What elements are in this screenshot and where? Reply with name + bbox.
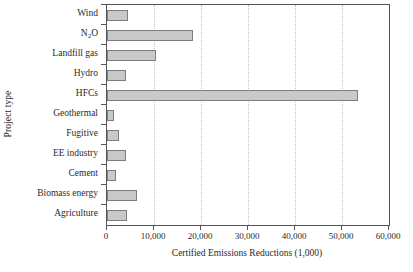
x-axis-tick-mark: [341, 225, 342, 230]
y-axis-tick-label: Cement: [14, 164, 102, 184]
y-axis-tick-label: Geothermal: [14, 104, 102, 124]
bar: [107, 210, 127, 221]
bar: [107, 10, 128, 21]
bar: [107, 130, 119, 141]
bar-row: [107, 165, 389, 185]
y-axis-tick-label: N2O: [14, 24, 102, 44]
bar-row: [107, 5, 389, 25]
bar: [107, 150, 126, 161]
plot-area: [106, 4, 390, 226]
y-axis-tick-label: Fugitive: [14, 124, 102, 144]
bar: [107, 170, 116, 181]
bar-row: [107, 125, 389, 145]
bar: [107, 50, 156, 61]
y-axis-tick-label: Agriculture: [14, 204, 102, 224]
x-axis-tick-label: 0: [104, 231, 109, 241]
x-axis-tick-mark: [200, 225, 201, 230]
bar-chart: Project type WindN2OLandfill gasHydroHFC…: [0, 0, 413, 272]
bar-row: [107, 25, 389, 45]
y-axis-tick-label: Wind: [14, 4, 102, 24]
bar: [107, 110, 114, 121]
x-axis-tick-label: 40,000: [282, 231, 307, 241]
x-axis-tick-mark: [294, 225, 295, 230]
x-axis-tick-label: 10,000: [141, 231, 166, 241]
x-axis-tick-mark: [153, 225, 154, 230]
x-axis-tick-labels: 010,00020,00030,00040,00050,00060,000: [106, 231, 388, 245]
x-axis-tick-mark: [388, 225, 389, 230]
bar-row: [107, 45, 389, 65]
bar-row: [107, 105, 389, 125]
y-axis-title-text: Project type: [3, 91, 13, 138]
bar-row: [107, 65, 389, 85]
x-axis-tick-label: 60,000: [376, 231, 401, 241]
y-axis-tick-labels: WindN2OLandfill gasHydroHFCsGeothermalFu…: [14, 4, 102, 224]
x-axis-tick-label: 50,000: [329, 231, 354, 241]
y-axis-tick-label: Landfill gas: [14, 44, 102, 64]
bar: [107, 90, 358, 101]
y-axis-tick-label: Biomass energy: [14, 184, 102, 204]
bar: [107, 30, 193, 41]
y-axis-tick-label: EE industry: [14, 144, 102, 164]
bar: [107, 190, 137, 201]
bar-series: [107, 5, 389, 225]
x-axis-ticks: [106, 225, 388, 230]
bar-row: [107, 205, 389, 225]
x-axis-title: Certified Emissions Reductions (1,000): [106, 248, 388, 258]
bar-row: [107, 85, 389, 105]
bar-row: [107, 185, 389, 205]
x-axis-tick-label: 20,000: [188, 231, 213, 241]
x-axis-tick-mark: [106, 225, 107, 230]
x-axis-tick-label: 30,000: [235, 231, 260, 241]
x-axis-tick-mark: [247, 225, 248, 230]
bar-row: [107, 145, 389, 165]
bar: [107, 70, 126, 81]
y-axis-tick-label: HFCs: [14, 84, 102, 104]
y-axis-tick-label: Hydro: [14, 64, 102, 84]
